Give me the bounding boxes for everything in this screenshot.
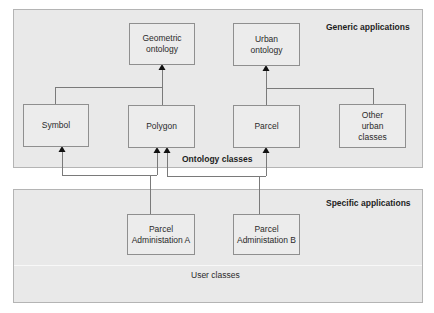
parcel-admin-a-line1: Parcel <box>132 224 191 235</box>
parcel-label: Parcel <box>254 121 278 132</box>
parcel-admin-b-box: Parcel Administation B <box>233 214 300 255</box>
other-urban-line1: Other <box>358 110 386 121</box>
parcel-box: Parcel <box>233 105 300 148</box>
other-urban-line3: classes <box>358 132 386 143</box>
polygon-label: Polygon <box>146 121 177 132</box>
parcel-admin-b-line2: Administation B <box>237 235 296 246</box>
geometric-ontology-line1: Geometric <box>142 33 181 44</box>
other-urban-classes-box: Other urban classes <box>339 104 406 148</box>
parcel-admin-b-line1: Parcel <box>237 224 296 235</box>
geometric-ontology-box: Geometric ontology <box>129 23 195 65</box>
connector-lines <box>0 0 434 313</box>
symbol-label: Symbol <box>42 120 70 131</box>
parcel-admin-a-line2: Administation A <box>132 235 191 246</box>
symbol-box: Symbol <box>23 104 89 147</box>
parcel-admin-a-box: Parcel Administation A <box>127 214 195 255</box>
geometric-ontology-line2: ontology <box>142 44 181 55</box>
other-urban-line2: urban <box>358 121 386 132</box>
urban-ontology-line1: Urban <box>250 34 282 45</box>
polygon-box: Polygon <box>128 105 195 148</box>
urban-ontology-line2: ontology <box>250 45 282 56</box>
urban-ontology-box: Urban ontology <box>233 23 300 66</box>
